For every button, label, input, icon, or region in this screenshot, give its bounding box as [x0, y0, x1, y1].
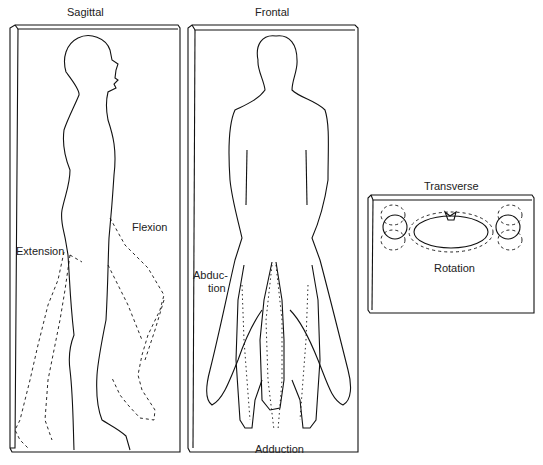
transverse-title: Transverse — [424, 180, 479, 192]
adduction-label: Adduction — [255, 443, 304, 455]
rotation-label: Rotation — [434, 262, 475, 274]
transverse-body-outline — [383, 212, 520, 248]
abduction-label-1: Abduc- — [193, 269, 228, 281]
frontal-title: Frontal — [255, 6, 289, 18]
transverse-panel-frame — [368, 195, 534, 313]
frontal-panel-frame — [188, 25, 358, 452]
abduction-label-2: tion — [208, 282, 226, 294]
sagittal-body-outline — [61, 36, 130, 450]
sagittal-panel-frame — [10, 25, 180, 452]
planes-of-motion-diagram — [0, 0, 543, 465]
sagittal-title: Sagittal — [67, 6, 104, 18]
transverse-rotation-dashed — [381, 205, 522, 252]
extension-label: Extension — [16, 245, 64, 257]
frontal-adduction-dotted — [242, 265, 308, 430]
frontal-body-outline — [207, 36, 351, 428]
flexion-label: Flexion — [132, 221, 167, 233]
